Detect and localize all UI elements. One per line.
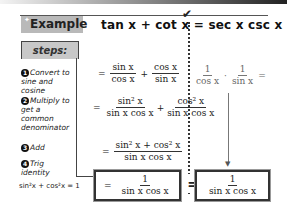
row-3: = sin² x + cos² xsin x cos x <box>98 140 182 163</box>
fraction: 1sin x cos x <box>207 174 258 197</box>
fraction: 1cos x <box>194 64 221 87</box>
step-4: 4Trig identity <box>21 159 61 177</box>
row-4-boxed: = 1sin x cos x <box>94 170 181 201</box>
result-box-right: 1sin x cos x <box>195 170 270 201</box>
example-badge: ✦ Example <box>21 16 83 33</box>
fraction: 1sin x <box>230 64 255 87</box>
fraction: cos xsin x <box>152 62 179 85</box>
fraction: sin² x + cos² xsin x cos x <box>114 140 183 163</box>
plus-sign: + <box>141 69 149 79</box>
equals-sign: = <box>258 71 266 81</box>
step-3: 3Add <box>21 143 45 152</box>
equation-equals: = <box>194 18 204 32</box>
arrow-line <box>228 93 229 163</box>
step-number: 3 <box>21 144 29 152</box>
step-2: 2Multiply to get a common denominator <box>21 96 75 132</box>
top-gradient-bar <box>0 0 287 4</box>
fraction: sin xcos x <box>110 62 137 85</box>
fraction: sin² xsin x cos x <box>105 96 156 119</box>
times-sign: · <box>224 71 227 81</box>
result-box-right-wrap: 1sin x cos x <box>195 170 270 201</box>
result-box-left: = 1sin x cos x <box>94 170 181 201</box>
equals-sign: = <box>104 181 112 191</box>
plus-sign: + <box>157 103 165 113</box>
steps-frame-bottom <box>76 176 94 177</box>
step-1: 1Convert to sine and cosine <box>21 68 75 95</box>
right-row-1: 1cos x · 1sin x = <box>194 64 269 87</box>
equation-right: sec x csc x <box>208 18 282 32</box>
dotted-divider <box>188 22 190 194</box>
equals-sign: = <box>93 103 101 113</box>
fraction: cos² xsin x cos x <box>165 96 216 119</box>
identity-text: sin²x + cos²x = 1 <box>19 182 80 190</box>
steps-label: steps: <box>21 41 79 59</box>
fraction: 1sin x cos x <box>120 174 171 197</box>
example-label: Example <box>30 17 87 31</box>
row-1: = sin xcos x + cos xsin x <box>94 62 179 85</box>
arrow-down-icon: ▼ <box>225 160 230 168</box>
step-text: Add <box>30 143 45 152</box>
step-number: 2 <box>21 97 29 105</box>
step-number: 4 <box>21 160 29 168</box>
step-number: 1 <box>21 69 29 77</box>
equals-sign: = <box>98 69 106 79</box>
steps-frame-line <box>76 58 77 176</box>
equals-sign: = <box>102 147 110 157</box>
checkmark-icon: ✔ <box>182 7 192 21</box>
row-2: = sin² xsin x cos x + cos² xsin x cos x <box>89 96 216 119</box>
sparkle-icon: ✦ <box>24 17 30 24</box>
equation-left: tan x + cot x <box>101 18 189 32</box>
